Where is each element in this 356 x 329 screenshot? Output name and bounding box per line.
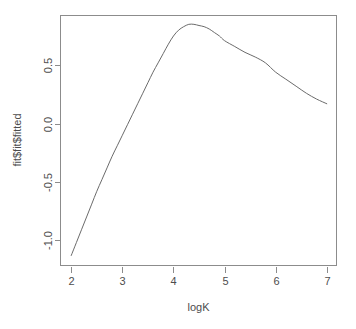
y-tick-label: 0.0: [42, 117, 54, 132]
y-axis-title: fit$fit$fitted: [11, 113, 23, 166]
x-tick-label: 5: [222, 275, 228, 287]
x-tick-label: 2: [68, 275, 74, 287]
x-tick-label: 3: [119, 275, 125, 287]
y-tick-label: -0.5: [42, 173, 54, 192]
y-tick-label: -1.0: [42, 231, 54, 250]
y-tick-label: 0.5: [42, 58, 54, 73]
x-tick-label: 7: [324, 275, 330, 287]
x-tick-label: 6: [273, 275, 279, 287]
chart-container: 234567 0.50.0-0.5-1.0 logK fit$fit$fitte…: [0, 0, 356, 329]
x-tick-label: 4: [170, 275, 176, 287]
fitted-curve-chart: 234567 0.50.0-0.5-1.0 logK fit$fit$fitte…: [0, 0, 356, 329]
x-axis-title: logK: [187, 301, 210, 313]
chart-background: [0, 0, 356, 329]
